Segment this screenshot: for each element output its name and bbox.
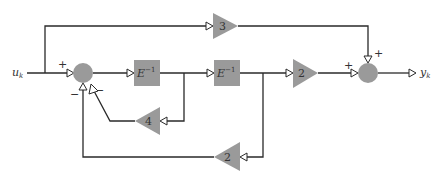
- arrow-into-gain-2-feedback: [240, 153, 247, 161]
- arrow-outer-feedback-into-sum1: [79, 83, 87, 90]
- arrow-into-gain-3: [206, 22, 213, 30]
- block-diagram: 3 + − − E−1 E−1 2 + + 4 2 uk yk: [0, 0, 443, 178]
- sum1-minus-sign-outer: −: [70, 88, 79, 101]
- gain-4-label: 4: [145, 115, 152, 128]
- arrow-into-sum1: [67, 69, 74, 77]
- sum-junction-1: [73, 63, 93, 83]
- gain-block-2-output: [293, 59, 318, 88]
- arrow-output: [409, 69, 416, 77]
- arrow-into-gain-2: [286, 69, 293, 77]
- gain-3-label: 3: [219, 20, 226, 33]
- wire-feedforward-to-sum2: [238, 26, 368, 56]
- wire-feedforward-branch: [45, 26, 206, 73]
- output-label: yk: [419, 66, 430, 80]
- arrow-into-gain-4: [160, 117, 167, 125]
- arrow-feedforward-into-sum2: [364, 56, 372, 63]
- sum2-plus-sign-feedforward: +: [374, 47, 383, 60]
- wire-inner-feedback-branch: [167, 73, 184, 121]
- gain-2-output-label: 2: [298, 67, 305, 80]
- gain-2-feedback-label: 2: [224, 151, 231, 164]
- arrow-into-delay2: [207, 69, 214, 77]
- arrow-into-delay1: [127, 69, 134, 77]
- wire-outer-feedback-branch: [247, 73, 263, 157]
- input-label: uk: [12, 66, 23, 80]
- sum1-plus-sign: +: [58, 58, 67, 71]
- sum-junction-2: [358, 63, 378, 83]
- sum2-plus-sign-forward: +: [344, 59, 353, 72]
